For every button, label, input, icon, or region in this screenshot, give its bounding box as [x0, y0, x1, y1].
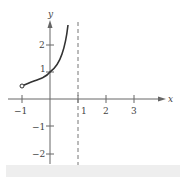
- y-tick-label: −2: [32, 149, 45, 159]
- x-tick-label: 2: [103, 106, 109, 116]
- y-axis-label: y: [47, 9, 54, 19]
- x-tick-label: 3: [131, 106, 137, 116]
- x-tick-label: −1: [14, 106, 27, 116]
- open-endpoint: [20, 84, 24, 88]
- bottom-strip: [6, 165, 180, 177]
- x-axis-arrow-icon: [158, 97, 166, 102]
- function-graph: x y −1 1 2 3 2 1 −1 −2: [0, 0, 180, 177]
- x-tick-label: 1: [81, 106, 87, 116]
- y-tick-label: 2: [39, 40, 45, 50]
- x-axis-label: x: [168, 94, 173, 104]
- y-tick-label: 1: [40, 64, 46, 74]
- function-curve: [24, 25, 69, 85]
- y-tick-label: −1: [32, 122, 45, 132]
- y-axis-arrow-icon: [48, 20, 53, 28]
